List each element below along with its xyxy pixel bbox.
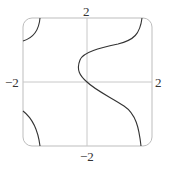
tick-label-right: 2 — [155, 76, 162, 89]
tick-label-bottom: −2 — [80, 150, 94, 163]
tick-label-left: −2 — [5, 76, 19, 89]
plot-area — [0, 0, 169, 173]
tick-label-top: 2 — [83, 5, 90, 18]
bottom-left-arc — [23, 111, 40, 146]
